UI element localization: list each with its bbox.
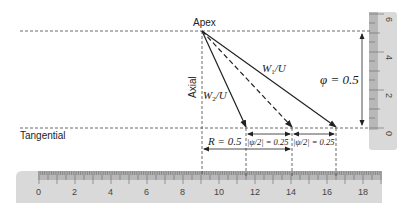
svg-text:12: 12	[250, 187, 260, 197]
vruler-tick-0: 0	[384, 131, 394, 136]
svg-text:18: 18	[358, 187, 368, 197]
vruler-tick-2: 2	[384, 93, 394, 98]
svg-text:4: 4	[108, 187, 113, 197]
r-label: R = 0.5	[207, 135, 242, 147]
svg-text:14: 14	[286, 187, 296, 197]
vruler-tick-4: 4	[384, 55, 394, 60]
svg-text:16: 16	[322, 187, 332, 197]
guide-lines	[20, 31, 370, 176]
phi-label: φ = 0.5	[320, 72, 359, 87]
mean-vector	[202, 31, 292, 127]
velocity-triangle-diagram: 6 4 2 0 0 2 4 6 8 10 12 14 16 18	[0, 0, 417, 214]
velocity-vectors	[202, 31, 336, 127]
psi-left-label: |ψ/2| = 0.25	[247, 137, 288, 147]
w2-label: W2/U	[203, 89, 228, 103]
svg-text:6: 6	[144, 187, 149, 197]
svg-text:10: 10	[214, 187, 224, 197]
w1-label: W1/U	[262, 62, 287, 76]
axial-label: Axial	[187, 76, 198, 98]
svg-text:8: 8	[180, 187, 185, 197]
w2-vector	[202, 31, 246, 127]
svg-text:2: 2	[72, 187, 77, 197]
horizontal-ruler: 0 2 4 6 8 10 12 14 16 18	[16, 171, 382, 203]
apex-label: Apex	[193, 17, 216, 28]
vertical-ruler: 6 4 2 0	[369, 12, 397, 150]
psi-right-label: |ψ/2| = 0.25	[293, 137, 334, 147]
w1-vector	[202, 31, 336, 127]
vruler-tick-6: 6	[384, 17, 394, 22]
svg-text:0: 0	[36, 187, 41, 197]
tangential-label: Tangential	[20, 130, 66, 141]
